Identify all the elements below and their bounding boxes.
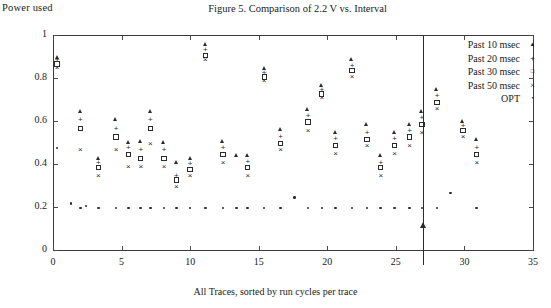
figure-title: Figure 5. Comparison of 2.2 V vs. Interv… <box>0 3 551 14</box>
point-cross-icon: × <box>474 160 480 166</box>
point-cross-icon: × <box>113 147 119 153</box>
x-axis-line <box>53 250 534 251</box>
point-plus-icon: + <box>407 128 413 134</box>
x-tick <box>190 246 191 250</box>
point-cross-icon: × <box>138 164 144 170</box>
y-tick-right <box>529 250 533 251</box>
point-cross-icon: × <box>460 134 466 140</box>
x-tick-top <box>327 36 328 40</box>
top-spine <box>53 35 534 36</box>
x-tick-label: 30 <box>449 256 479 267</box>
figure-scatter-plot: Power used Figure 5. Comparison of 2.2 V… <box>0 0 551 308</box>
point-dot-icon <box>379 207 382 210</box>
point-cross-icon: × <box>419 130 425 136</box>
point-square-icon <box>245 165 250 170</box>
point-dot-icon <box>334 207 337 210</box>
point-cross-icon: × <box>95 173 101 179</box>
point-dot-icon <box>79 207 82 210</box>
point-square-icon <box>305 119 310 124</box>
point-square-icon <box>113 134 118 139</box>
legend-item-4[interactable]: OPT• <box>468 92 537 106</box>
point-dot-icon <box>475 207 478 210</box>
x-tick <box>533 246 534 250</box>
y-tick-right <box>529 121 533 122</box>
point-square-icon <box>333 143 338 148</box>
point-plus-icon: + <box>419 115 425 121</box>
point-triangle-icon <box>138 139 142 143</box>
point-dot-icon <box>85 205 88 208</box>
point-dot-icon <box>279 207 282 210</box>
point-cross-icon: × <box>378 173 384 179</box>
point-dot-icon <box>175 207 178 210</box>
x-tick <box>259 246 260 250</box>
point-square-icon <box>148 126 153 131</box>
point-cross-icon: × <box>364 143 370 149</box>
point-triangle-icon <box>78 109 82 113</box>
y-tick <box>54 250 58 251</box>
legend-dot-icon: • <box>528 92 537 106</box>
point-triangle-icon <box>113 117 117 121</box>
point-dot-icon <box>366 207 369 210</box>
y-tick-label: 0.4 <box>13 157 47 168</box>
legend-label: Past 30 msec <box>468 65 520 79</box>
legend-label: Past 50 msec <box>468 79 520 93</box>
x-tick-label: 15 <box>244 256 274 267</box>
point-dot-icon <box>321 207 324 210</box>
legend-cross-icon: × <box>528 79 537 93</box>
point-plus-icon: + <box>391 136 397 142</box>
legend: Past 10 msec▲Past 20 msec+Past 30 msec□P… <box>468 38 537 106</box>
point-triangle-icon <box>161 140 165 144</box>
point-triangle-icon <box>148 109 152 113</box>
point-cross-icon: × <box>161 164 167 170</box>
point-triangle-icon <box>278 127 282 131</box>
point-dot-icon <box>139 207 142 210</box>
point-plus-icon: + <box>220 145 226 151</box>
point-square-icon <box>161 156 166 161</box>
point-plus-icon: + <box>278 134 284 140</box>
point-dot-icon <box>408 207 411 210</box>
point-cross-icon: × <box>220 160 226 166</box>
point-cross-icon: × <box>333 151 339 157</box>
point-cross-icon: × <box>54 65 60 71</box>
point-dot-icon <box>307 207 310 210</box>
point-square-icon <box>378 165 383 170</box>
point-dot-icon <box>56 147 59 150</box>
y-tick <box>54 35 58 36</box>
y-tick <box>54 78 58 79</box>
legend-item-2[interactable]: Past 30 msec□ <box>468 65 537 79</box>
point-plus-icon: + <box>113 126 119 132</box>
y-tick <box>54 121 58 122</box>
x-tick <box>122 246 123 250</box>
x-tick <box>53 246 54 250</box>
legend-item-3[interactable]: Past 50 msec× <box>468 79 537 93</box>
point-dot-icon <box>127 207 130 210</box>
point-dot-icon <box>449 192 452 195</box>
x-tick <box>396 246 397 250</box>
point-dot-icon <box>246 207 249 210</box>
point-dot-icon <box>70 202 73 205</box>
point-cross-icon: × <box>202 57 208 63</box>
point-plus-icon: + <box>434 93 440 99</box>
x-tick-top <box>122 36 123 40</box>
point-dot-icon <box>235 207 238 210</box>
point-square-icon <box>407 134 412 139</box>
legend-item-1[interactable]: Past 20 msec+ <box>468 52 537 66</box>
figure-title-text: Figure 5. Comparison of 2.2 V vs. Interv… <box>208 3 387 14</box>
legend-item-0[interactable]: Past 10 msec▲ <box>468 38 537 52</box>
point-dot-icon <box>189 207 192 210</box>
legend-triangle-icon: ▲ <box>528 38 537 52</box>
legend-label: OPT <box>501 92 520 106</box>
x-tick-top <box>53 36 54 40</box>
x-tick-top <box>464 36 465 40</box>
point-triangle-icon <box>474 137 478 141</box>
point-plus-icon: + <box>333 136 339 142</box>
y-tick-label: 1 <box>13 28 47 39</box>
point-dot-icon <box>149 207 152 210</box>
point-plus-icon: + <box>474 145 480 151</box>
x-tick <box>464 246 465 250</box>
point-cross-icon: × <box>77 147 83 153</box>
x-tick-label: 0 <box>38 256 68 267</box>
x-axis-label: All Traces, sorted by run cycles per tra… <box>0 286 551 297</box>
point-dot-icon <box>222 207 225 210</box>
point-dot-icon <box>263 207 266 210</box>
